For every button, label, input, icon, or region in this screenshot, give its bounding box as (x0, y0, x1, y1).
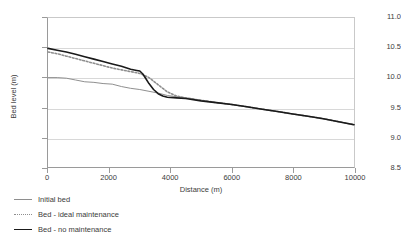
legend-item: Bed - no maintenance (14, 222, 119, 237)
legend-item-label: Bed - no maintenance (32, 225, 111, 234)
legend-item: Initial bed (14, 192, 119, 207)
bed-level-line-chart: Bed level (m) 8.59.09.510.010.511.0 0200… (0, 0, 401, 238)
legend-item-label: Initial bed (32, 195, 70, 204)
x-axis-tick-label: 4000 (150, 174, 190, 182)
y-axis-title-wrapper: Bed level (m) (5, 32, 19, 152)
x-axis-tick-label: 10000 (335, 174, 375, 182)
legend-line-swatch (14, 195, 32, 204)
y-axis-tick-label: 8.5 (367, 164, 401, 172)
series-line (48, 48, 354, 124)
y-axis-title: Bed level (m) (9, 37, 18, 157)
x-axis-tick-label: 2000 (89, 174, 129, 182)
x-axis-tick-label: 8000 (273, 174, 313, 182)
chart-legend: Initial bedBed - ideal maintenanceBed - … (14, 192, 119, 237)
y-axis-tick-label: 10.5 (367, 43, 401, 51)
legend-line-swatch (14, 210, 32, 219)
x-axis-tick-label: 0 (27, 174, 67, 182)
y-axis-tick-label: 11.0 (367, 13, 401, 21)
plot-area (47, 17, 355, 168)
series-lines (48, 18, 354, 167)
y-axis-tick-label: 9.0 (367, 134, 401, 142)
legend-item-label: Bed - ideal maintenance (32, 210, 119, 219)
legend-item: Bed - ideal maintenance (14, 207, 119, 222)
series-line (48, 52, 354, 125)
y-axis-tick-label: 10.0 (367, 73, 401, 81)
x-axis-tick-label: 6000 (212, 174, 252, 182)
legend-line-swatch (14, 225, 32, 234)
y-axis-tick-label: 9.5 (367, 104, 401, 112)
